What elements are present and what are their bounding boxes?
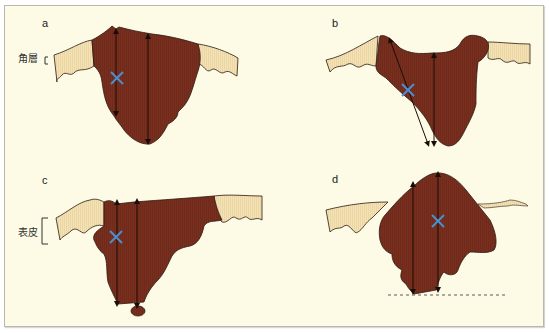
lesion-shape: [94, 196, 222, 304]
skin-layer: [54, 40, 94, 82]
bracket-icon: [45, 57, 48, 64]
panel-label-c: c: [42, 174, 48, 186]
skin-layer: [198, 44, 238, 76]
skin-layer: [488, 42, 530, 64]
panel-label-d: d: [332, 173, 338, 185]
lesion-shape: [376, 35, 489, 146]
lesion-depth-diagram: a 角層 b c 表皮: [0, 0, 549, 333]
panel-a: a 角層: [18, 17, 238, 144]
lesion-shape: [92, 26, 200, 144]
panel-b: b: [326, 17, 530, 146]
skin-layer: [478, 200, 528, 208]
panel-label-a: a: [42, 17, 49, 29]
panel-label-b: b: [332, 17, 338, 29]
lesion-fragment: [131, 306, 145, 316]
stratum-corneum-label: 角層: [18, 53, 38, 64]
panel-d: d: [326, 173, 528, 295]
epidermis-label: 表皮: [18, 226, 38, 238]
skin-layer: [326, 36, 378, 72]
panel-c: c 表皮: [18, 174, 262, 316]
bracket-icon: [42, 218, 48, 244]
skin-layer: [326, 202, 388, 233]
